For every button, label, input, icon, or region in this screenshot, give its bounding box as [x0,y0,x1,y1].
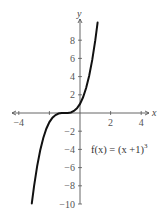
y-tick-label: 4 [70,71,75,82]
x-axis-label: x [151,107,157,118]
y-tick-label: −10 [59,199,75,210]
function-plot: −4248642−2−4−6−8−10 x y f(x) = (x +1)3 [0,0,164,223]
y-axis-label: y [76,8,82,19]
y-tick-label: −6 [64,162,75,173]
x-tick-label: −4 [13,117,24,128]
axes [12,19,149,204]
x-tick-label: 4 [139,117,144,128]
function-annotation: f(x) = (x +1)3 [91,142,148,156]
x-tick-label: 2 [108,117,113,128]
tick-labels: −4248642−2−4−6−8−10 [13,35,143,210]
y-tick-label: −4 [64,144,75,155]
y-tick-label: 2 [70,89,75,100]
y-tick-label: −8 [64,180,75,191]
y-tick-label: 8 [70,35,75,46]
function-annotation-exponent: 3 [144,142,148,150]
function-annotation-text: f(x) = (x +1) [91,144,144,156]
y-tick-label: 6 [70,53,75,64]
y-tick-label: −2 [64,126,75,137]
